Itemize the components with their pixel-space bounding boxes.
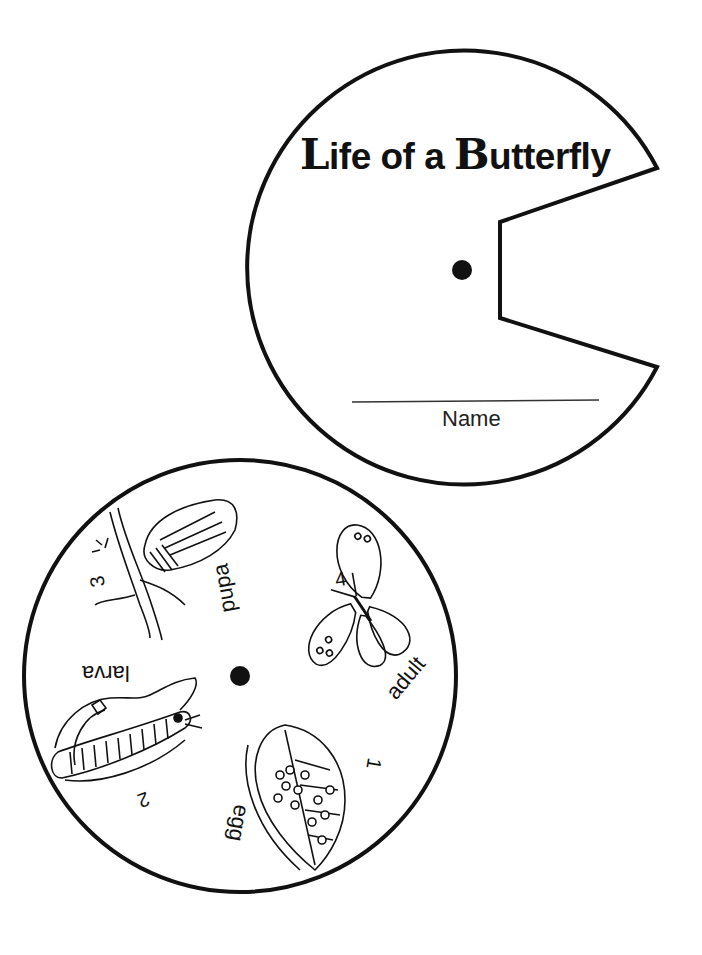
title-initial-b: B [454,130,489,179]
page-title: Life of a Butterfly [300,130,610,179]
pivot-hole-icon [452,260,472,280]
title-text-1: ife of a [329,136,454,177]
title-initial-l: L [300,130,329,179]
pivot-hole-icon [230,666,250,686]
name-label: Name [442,406,501,432]
stage-label-larva: larva [82,660,130,686]
title-text-2: utterfly [489,136,610,177]
